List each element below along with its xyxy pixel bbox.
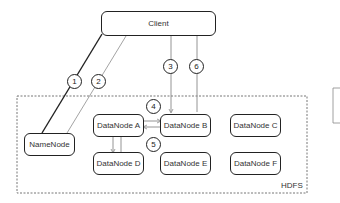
step-4-badge: 4 bbox=[146, 99, 161, 114]
datanode-c: DataNode C bbox=[230, 114, 281, 137]
step-3-badge: 3 bbox=[163, 59, 178, 74]
step-1-label: 1 bbox=[72, 77, 76, 86]
step-5-label: 5 bbox=[151, 140, 155, 149]
step-4-label: 4 bbox=[151, 102, 155, 111]
datanode-c-label: DataNode C bbox=[233, 121, 277, 130]
datanode-d-label: DataNode D bbox=[96, 159, 140, 168]
datanode-d: DataNode D bbox=[93, 152, 144, 175]
client-label: Client bbox=[148, 19, 168, 28]
datanode-e: DataNode E bbox=[160, 152, 211, 175]
datanode-f: DataNode F bbox=[230, 152, 281, 175]
step-2-label: 2 bbox=[96, 77, 100, 86]
datanode-e-label: DataNode E bbox=[164, 159, 208, 168]
step-5-badge: 5 bbox=[146, 137, 161, 152]
namenode-label: NameNode bbox=[29, 140, 69, 149]
hdfs-label: HDFS bbox=[281, 181, 303, 190]
client-node: Client bbox=[101, 11, 216, 36]
namenode-node: NameNode bbox=[24, 133, 75, 156]
datanode-a-label: DataNode A bbox=[97, 121, 140, 130]
datanode-b: DataNode B bbox=[160, 114, 211, 137]
step-2-badge: 2 bbox=[91, 74, 106, 89]
step-6-label: 6 bbox=[194, 62, 198, 71]
datanode-a: DataNode A bbox=[93, 114, 144, 137]
step-6-badge: 6 bbox=[189, 59, 204, 74]
partial-box-right bbox=[333, 88, 340, 123]
datanode-b-label: DataNode B bbox=[164, 121, 208, 130]
datanode-f-label: DataNode F bbox=[234, 159, 277, 168]
step-1-badge: 1 bbox=[67, 74, 82, 89]
step-3-label: 3 bbox=[168, 62, 172, 71]
